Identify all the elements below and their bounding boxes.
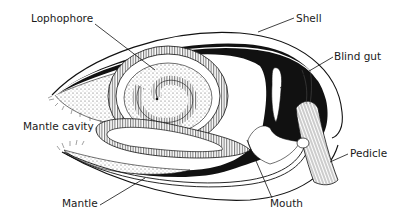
brachiopod-diagram [0, 0, 406, 223]
label-mouth: Mouth [270, 198, 303, 209]
label-blind-gut: Blind gut [334, 51, 381, 62]
label-mantle-cavity: Mantle cavity [23, 121, 94, 132]
leader-mantle [100, 178, 145, 205]
label-pedicle: Pedicle [350, 148, 387, 159]
label-lophophore: Lophophore [31, 13, 93, 24]
label-shell: Shell [296, 13, 322, 24]
leader-shell [258, 18, 294, 32]
label-mantle: Mantle [62, 198, 98, 209]
